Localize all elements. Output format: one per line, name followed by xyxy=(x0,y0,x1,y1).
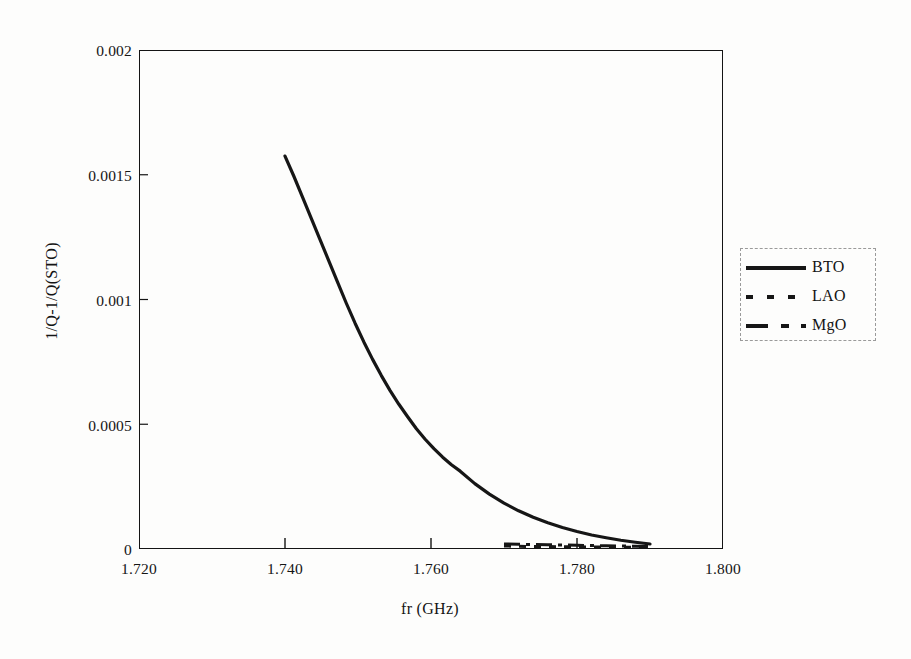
legend: BTO LAO MgO xyxy=(740,248,876,341)
legend-label: MgO xyxy=(812,317,847,333)
x-axis-tick-labels: 1.720 1.740 1.760 1.780 1.800 xyxy=(0,561,911,587)
y-tick-label: 0.0005 xyxy=(88,418,132,434)
x-tick-label: 1.740 xyxy=(245,561,325,577)
y-tick-label: 0 xyxy=(124,542,132,558)
y-tick-label: 0.001 xyxy=(96,293,132,309)
legend-entry-lao: LAO xyxy=(745,283,875,309)
x-tick-label: 1.780 xyxy=(537,561,617,577)
legend-entry-mgo: MgO xyxy=(745,312,875,338)
legend-label: LAO xyxy=(812,288,846,304)
y-axis-title: 1/Q-1/Q(STO) xyxy=(43,191,61,391)
x-tick-label: 1.760 xyxy=(391,561,471,577)
plot-data-layer xyxy=(139,50,723,549)
x-tick-label: 1.720 xyxy=(99,561,179,577)
legend-label: BTO xyxy=(812,259,845,275)
y-tick-label: 0.002 xyxy=(96,43,132,59)
x-tick-label: 1.800 xyxy=(683,561,763,577)
legend-entry-bto: BTO xyxy=(745,254,875,280)
series-line-bto xyxy=(285,156,650,544)
y-tick-label: 0.0015 xyxy=(88,168,132,184)
legend-swatch-solid-icon xyxy=(745,260,807,274)
y-axis-ticks xyxy=(139,50,148,424)
legend-swatch-dashdot-icon xyxy=(745,318,807,332)
x-axis-title: fr (GHz) xyxy=(0,600,860,618)
figure-canvas: 0.002 0.0015 0.001 0.0005 0 1/Q-1/Q(STO)… xyxy=(0,0,911,659)
legend-swatch-dotted-icon xyxy=(745,289,807,303)
